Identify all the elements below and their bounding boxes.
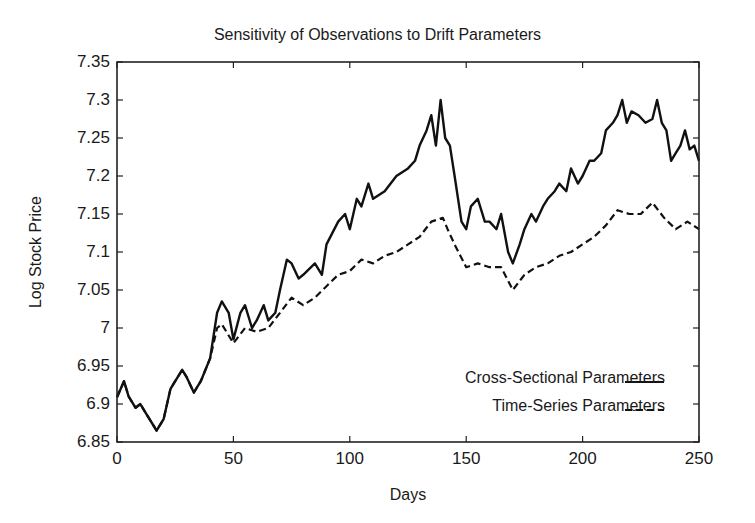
y-tick-label: 7.1 bbox=[86, 242, 110, 262]
x-tick-label: 150 bbox=[452, 449, 480, 469]
y-tick-label: 7.35 bbox=[77, 52, 110, 72]
x-tick-label: 100 bbox=[336, 449, 364, 469]
x-tick-label: 250 bbox=[685, 449, 713, 469]
x-tick-label: 50 bbox=[224, 449, 243, 469]
y-tick-label: 7.3 bbox=[86, 90, 110, 110]
y-tick-label: 7 bbox=[101, 318, 110, 338]
legend-entry-time-series: Time-Series Parameters bbox=[492, 397, 665, 415]
y-tick-label: 7.05 bbox=[77, 280, 110, 300]
legend-entry-cross-sectional: Cross-Sectional Parameters bbox=[465, 369, 665, 387]
chart-title: Sensitivity of Observations to Drift Par… bbox=[0, 26, 755, 44]
y-tick-label: 6.9 bbox=[86, 394, 110, 414]
y-tick-label: 6.95 bbox=[77, 356, 110, 376]
y-axis-label: Log Stock Price bbox=[27, 196, 45, 308]
line-chart bbox=[0, 0, 755, 523]
y-tick-label: 7.25 bbox=[77, 128, 110, 148]
x-axis-label: Days bbox=[390, 486, 426, 504]
x-tick-label: 200 bbox=[568, 449, 596, 469]
y-tick-label: 7.2 bbox=[86, 166, 110, 186]
x-tick-label: 0 bbox=[112, 449, 121, 469]
y-tick-label: 6.85 bbox=[77, 432, 110, 452]
y-tick-label: 7.15 bbox=[77, 204, 110, 224]
